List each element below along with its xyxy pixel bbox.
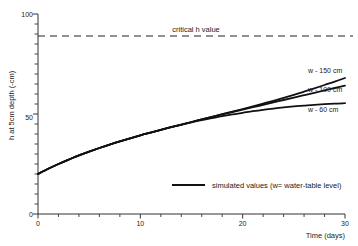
chart-svg: 100 50 0 0 10 20 30 Time (days) h at 5cm…	[0, 0, 358, 246]
series-label-w-150cm: w - 150 cm	[307, 67, 342, 74]
x-tick-label-20: 20	[239, 220, 247, 227]
x-tick-label-0: 0	[36, 220, 40, 227]
y-tick-label-50: 50	[25, 114, 33, 121]
y-tick-label-100: 100	[21, 11, 33, 18]
x-tick-label-10: 10	[136, 220, 144, 227]
critical-h-value-label: critical h value	[172, 25, 220, 34]
x-axis-title: Time (days)	[306, 231, 346, 240]
chart-figure: 100 50 0 0 10 20 30 Time (days) h at 5cm…	[0, 0, 358, 246]
y-tick-label-0: 0	[29, 211, 33, 218]
series-label-w-100cm: w - 100 cm	[307, 86, 342, 93]
y-axis-title: h at 5cm depth (-cm)	[7, 70, 16, 140]
x-tick-label-30: 30	[341, 220, 349, 227]
legend-label: simulated values (w= water-table level)	[212, 181, 342, 190]
series-label-w-60cm: w - 60 cm	[307, 106, 339, 113]
chart-background	[0, 0, 358, 246]
